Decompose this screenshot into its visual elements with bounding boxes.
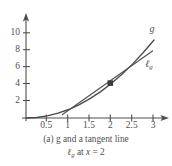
caption-at-text: at (75, 147, 86, 157)
tangent-label-ell-g: ℓg (145, 59, 153, 71)
x-tick-label-2: 2 (108, 121, 113, 131)
caption-line-1: (a) g and a tangent line (0, 133, 172, 146)
x-tick-label-0-5: 0.5 (40, 121, 52, 131)
y-tick-label-10: 10 (11, 28, 21, 38)
curve-g (26, 40, 154, 118)
caption-equals-value: = 2 (90, 147, 105, 157)
x-tick-label-1-5: 1.5 (83, 121, 95, 131)
figure-caption: (a) g and a tangent line ℓg at x = 2 (0, 133, 172, 161)
y-tick-label-4: 4 (15, 79, 20, 89)
x-tick-label-2-5: 2.5 (126, 121, 138, 131)
x-tick-label-3: 3 (151, 121, 156, 131)
curve-label-g: g (150, 24, 155, 34)
y-tick-label-6: 6 (15, 62, 20, 72)
y-tick-label-2: 2 (15, 96, 20, 106)
tangency-point-marker (108, 80, 114, 86)
x-tick-label-1: 1 (65, 121, 70, 131)
figure-container: 2 4 6 8 10 0.5 1 1.5 2 2.5 3 g ℓg (a) g … (0, 0, 172, 166)
caption-line-2: ℓg at x = 2 (0, 146, 172, 161)
tangent-label-subscript: g (149, 63, 153, 71)
y-tick-label-8: 8 (15, 45, 20, 55)
